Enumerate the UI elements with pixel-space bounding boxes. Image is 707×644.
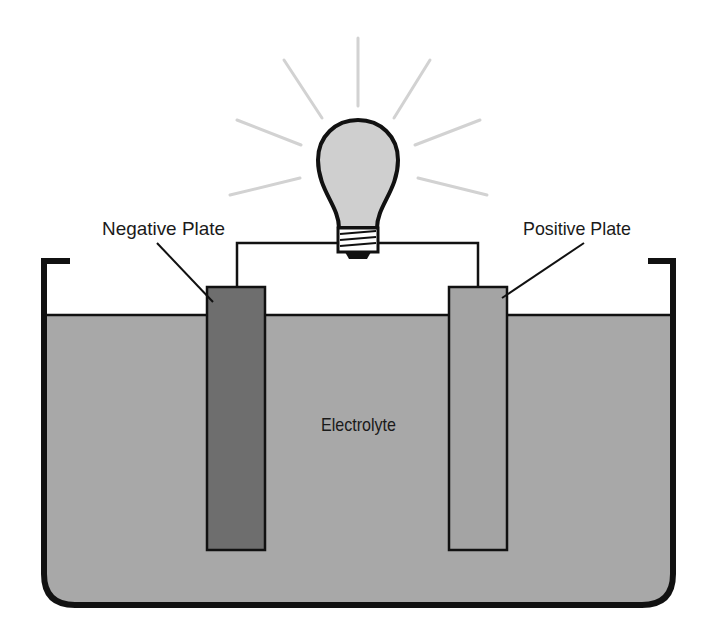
electrolyte xyxy=(44,315,673,605)
positive-plate xyxy=(449,287,507,550)
positive-plate-label: Positive Plate xyxy=(523,218,631,239)
negative-leader-line xyxy=(157,243,213,302)
light-bulb-icon xyxy=(318,120,398,259)
positive-leader-line xyxy=(502,243,584,298)
negative-plate-label: Negative Plate xyxy=(102,218,225,239)
electrolyte-label: Electrolyte xyxy=(321,414,396,435)
negative-plate xyxy=(207,287,265,550)
battery-cell-diagram: Negative Plate Positive Plate Electrolyt… xyxy=(0,0,707,644)
